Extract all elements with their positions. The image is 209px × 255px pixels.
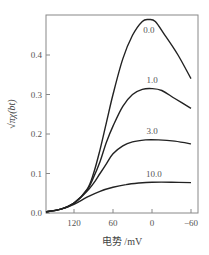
curve-label-3-0: 3.0 (146, 126, 158, 136)
axes-box (46, 15, 198, 213)
curve-label-0-0: 0.0 (143, 25, 155, 35)
curve-10-0 (46, 182, 191, 212)
y-tick-label: 0.2 (31, 129, 42, 139)
x-tick-label: 0 (150, 218, 155, 228)
curve-label-1-0: 1.0 (146, 75, 158, 85)
axis-ticks: 120600−600.00.10.20.30.4 (31, 50, 199, 228)
x-tick-label: 120 (67, 218, 81, 228)
x-axis-title: 电势 /mV (102, 235, 143, 247)
y-tick-label: 0.1 (31, 169, 42, 179)
chart: 120600−600.00.10.20.30.4 0.01.03.010.0 电… (0, 0, 209, 255)
curve-labels: 0.01.03.010.0 (143, 25, 162, 179)
x-tick-label: 60 (109, 218, 119, 228)
curve-3-0 (46, 140, 191, 212)
curves (46, 19, 191, 211)
curve-label-10-0: 10.0 (146, 169, 162, 179)
y-tick-label: 0.0 (31, 208, 43, 218)
x-tick-label: −60 (184, 218, 199, 228)
y-tick-label: 0.4 (31, 50, 43, 60)
curve-1-0 (46, 88, 191, 211)
y-tick-label: 0.3 (31, 90, 43, 100)
plot-frame (46, 15, 198, 213)
y-axis-title: √πχ(bt) (6, 99, 18, 129)
